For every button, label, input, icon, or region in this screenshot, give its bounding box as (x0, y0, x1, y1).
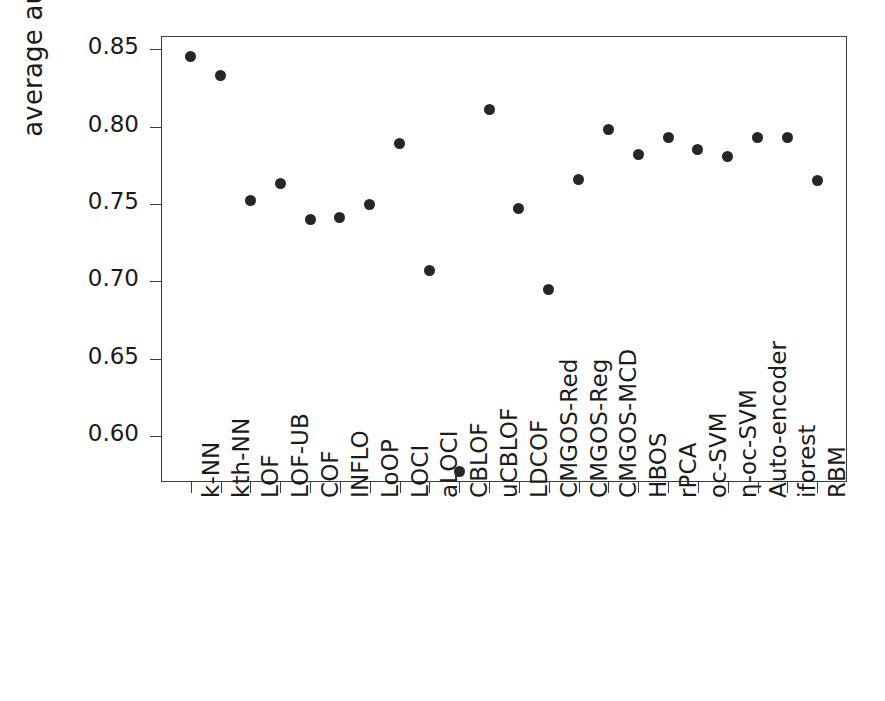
y-axis-tick (150, 127, 161, 128)
x-axis-tick (370, 482, 371, 493)
y-axis-tick (150, 281, 161, 282)
x-axis-tick-label: CMGOS-Red (558, 359, 581, 498)
x-axis-tick-label: iforest (796, 425, 819, 498)
data-point (543, 284, 554, 295)
y-axis-tick-label: 0.60 (77, 420, 139, 446)
x-axis-tick (459, 482, 460, 493)
x-axis-tick (549, 482, 550, 493)
x-axis-tick (221, 482, 222, 493)
data-point (573, 174, 584, 185)
x-axis-tick (608, 482, 609, 493)
data-point (633, 149, 644, 160)
x-axis-tick-label: INFLO (349, 430, 372, 498)
x-axis-tick (698, 482, 699, 493)
x-axis-tick-label: LOF (259, 454, 282, 498)
x-axis-tick (191, 482, 192, 493)
data-point (603, 124, 614, 135)
x-axis-tick-label: aLOCI (438, 430, 461, 498)
x-axis-tick (668, 482, 669, 493)
x-axis-tick-label: HBOS (647, 432, 670, 498)
x-axis-tick-label: oc-SVM (707, 412, 730, 498)
x-axis-tick-label: rPCA (677, 442, 700, 498)
x-axis-tick-label: CMGOS-MCD (617, 349, 640, 498)
x-axis-tick (280, 482, 281, 493)
y-axis-tick-label: 0.75 (77, 188, 139, 214)
x-axis-tick (758, 482, 759, 493)
data-point (782, 132, 793, 143)
data-point (722, 151, 733, 162)
y-axis-tick-label: 0.80 (77, 111, 139, 137)
data-point (663, 132, 674, 143)
x-axis-tick (250, 482, 251, 493)
y-axis-tick-label: 0.85 (77, 33, 139, 59)
x-axis-tick (400, 482, 401, 493)
x-axis-tick (817, 482, 818, 493)
data-point (305, 214, 316, 225)
x-axis-tick (310, 482, 311, 493)
x-axis-tick-label: LDCOF (528, 420, 551, 498)
x-axis-tick-label: Auto-encoder (767, 341, 790, 498)
x-axis-tick-label: uCBLOF (498, 408, 521, 498)
x-axis-tick-label: RBM (826, 446, 849, 498)
data-point (812, 175, 823, 186)
x-axis-tick (787, 482, 788, 493)
y-axis-tick-label: 0.70 (77, 265, 139, 291)
data-point (424, 265, 435, 276)
y-axis-tick (150, 204, 161, 205)
data-point (752, 132, 763, 143)
y-axis-tick (150, 359, 161, 360)
x-axis-tick-label: k-NN (200, 442, 223, 498)
x-axis-tick-label: kth-NN (230, 418, 253, 498)
x-axis-tick-label: LOCI (409, 445, 432, 498)
scatter-chart-figure: average auc 0.600.650.700.750.800.85 k-N… (0, 0, 885, 701)
x-axis-tick (728, 482, 729, 493)
data-point (484, 104, 495, 115)
x-axis-tick (638, 482, 639, 493)
x-axis-tick-label: CBLOF (468, 422, 491, 498)
y-axis-tick (150, 436, 161, 437)
x-axis-tick (340, 482, 341, 493)
y-axis-title: average auc (14, 0, 52, 170)
x-axis-tick (429, 482, 430, 493)
x-axis-tick (489, 482, 490, 493)
x-axis-tick (519, 482, 520, 493)
x-axis-tick-label: CMGOS-Reg (588, 359, 611, 498)
y-axis-tick-label: 0.65 (77, 343, 139, 369)
y-axis-tick (150, 49, 161, 50)
data-point (364, 199, 375, 210)
x-axis-tick-label: LOF-UB (289, 413, 312, 498)
x-axis-tick-label: COF (319, 450, 342, 498)
x-axis-tick-label: η-oc-SVM (737, 389, 760, 498)
x-axis-tick (579, 482, 580, 493)
x-axis-tick-label: LoOP (379, 439, 402, 498)
